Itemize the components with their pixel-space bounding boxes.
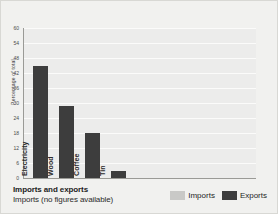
plot-area: ElectricityWoodCoffeeTin — [23, 28, 256, 179]
x-axis-category-label: Tin — [99, 165, 107, 176]
bar-exports — [33, 66, 48, 179]
x-axis-category-label: Coffee — [73, 154, 81, 176]
y-axis-tick-label: 42 — [13, 71, 19, 76]
y-axis-tick-label: 48 — [13, 56, 19, 61]
legend-swatch — [170, 191, 185, 200]
y-axis-tick-label: 12 — [13, 146, 19, 151]
y-axis-tick-labels: 06121824303642485460 — [1, 28, 21, 179]
bar-exports — [59, 106, 74, 179]
y-axis-tick-label: 60 — [13, 26, 19, 31]
chart-legend: ImportsExports — [170, 191, 267, 200]
y-axis-tick-label: 24 — [13, 116, 19, 121]
legend-label: Imports — [188, 191, 215, 200]
legend-item: Exports — [222, 191, 267, 200]
y-axis-tick-label: 0 — [16, 176, 19, 181]
bar-group: Tin — [106, 28, 132, 178]
y-axis-tick-label: 30 — [13, 101, 19, 106]
y-axis-tick-label: 18 — [13, 131, 19, 136]
chart-figure: Percentage of total 06121824303642485460… — [0, 0, 278, 214]
x-axis-category-label: Electricity — [21, 141, 29, 176]
y-axis-tick-label: 54 — [13, 41, 19, 46]
caption-title: Imports and exports — [13, 185, 163, 195]
x-axis-category-label: Wood — [47, 156, 55, 176]
legend-item: Imports — [170, 191, 215, 200]
caption: Imports and exports Imports (no figures … — [13, 185, 163, 205]
bar-series-exports: ElectricityWoodCoffeeTin — [24, 28, 256, 178]
bar-exports — [111, 171, 126, 179]
bar-exports — [85, 133, 100, 178]
legend-label: Exports — [240, 191, 267, 200]
caption-subtitle: Imports (no figures available) — [13, 195, 163, 205]
legend-swatch — [222, 191, 237, 200]
y-axis-tick-label: 6 — [16, 161, 19, 166]
y-axis-tick-label: 36 — [13, 86, 19, 91]
bar-group: Coffee — [80, 28, 106, 178]
